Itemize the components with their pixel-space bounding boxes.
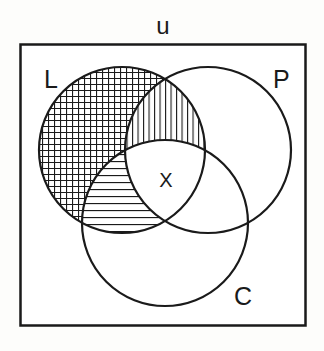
intersection-label: X — [159, 169, 172, 191]
set-c-label: C — [234, 282, 252, 310]
set-p-label: P — [273, 65, 290, 93]
universe-label: u — [156, 12, 169, 39]
set-l-label: L — [44, 65, 58, 93]
venn-diagram: u L P C X — [0, 0, 324, 351]
